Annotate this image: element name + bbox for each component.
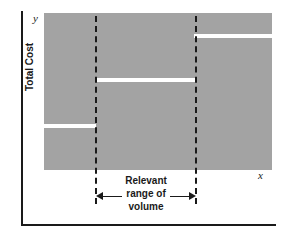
step-cost-chart: y x Total Cost Relevant range of volume	[0, 0, 282, 241]
arrow-right-shaft	[170, 196, 190, 197]
step-line-relevant-range	[95, 78, 196, 82]
plot-area	[44, 13, 272, 170]
y-axis-letter: y	[33, 13, 38, 24]
arrow-left-shaft	[102, 196, 122, 197]
step-line-upper	[194, 34, 272, 38]
relevant-range-label-line3: volume	[96, 200, 196, 213]
x-axis-letter: x	[258, 170, 263, 181]
y-axis-line	[21, 11, 23, 226]
x-axis-line	[21, 224, 276, 226]
relevant-range-span-arrow	[96, 192, 196, 201]
y-axis-title: Total Cost	[25, 31, 35, 103]
step-line-lower	[44, 124, 96, 128]
relevant-range-label-line1: Relevant	[96, 174, 196, 187]
arrow-right-head-icon	[189, 192, 196, 200]
